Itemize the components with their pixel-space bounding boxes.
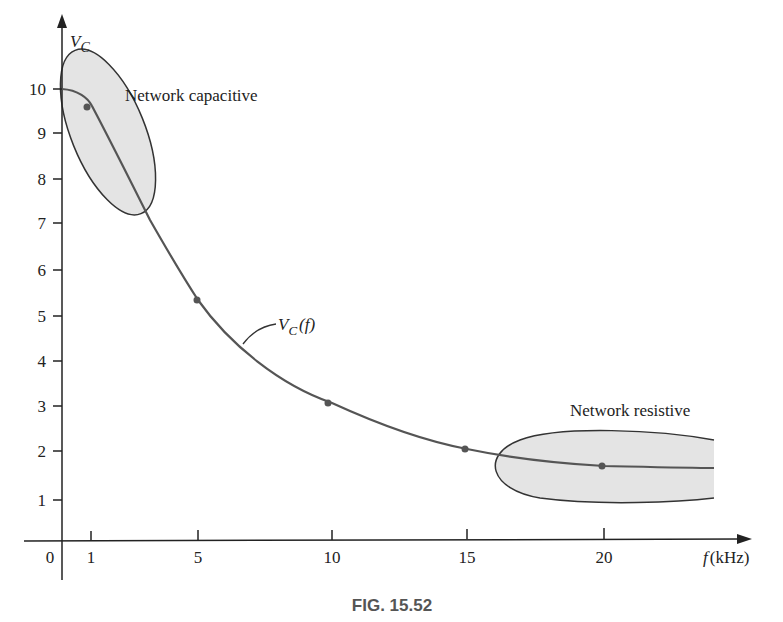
svg-text:1: 1 xyxy=(38,491,47,510)
curve-leader xyxy=(243,324,276,344)
svg-text:0: 0 xyxy=(46,548,55,567)
svg-text:10: 10 xyxy=(29,80,46,99)
data-points xyxy=(84,104,606,470)
svg-text:5: 5 xyxy=(194,548,203,567)
svg-text:15: 15 xyxy=(459,548,476,567)
x-axis-arrow xyxy=(737,534,752,544)
capacitive-region xyxy=(41,37,176,228)
y-axis-arrow xyxy=(57,14,67,28)
figure-caption: FIG. 15.52 xyxy=(352,596,432,615)
svg-text:10: 10 xyxy=(324,548,341,567)
x-axis-label: f(kHz) xyxy=(703,548,749,567)
svg-text:8: 8 xyxy=(38,170,47,189)
svg-text:6: 6 xyxy=(38,261,47,280)
chart: 1 2 3 4 5 6 7 8 9 10 0 1 5 10 15 20 VC f… xyxy=(0,0,783,622)
y-tick-labels: 1 2 3 4 5 6 7 8 9 10 xyxy=(29,80,47,510)
svg-text:20: 20 xyxy=(596,548,613,567)
svg-text:1: 1 xyxy=(87,548,96,567)
resistive-label: Network resistive xyxy=(570,401,690,420)
svg-text:9: 9 xyxy=(38,124,47,143)
x-tick-labels: 0 1 5 10 15 20 xyxy=(46,548,613,567)
svg-text:4: 4 xyxy=(38,352,47,371)
svg-text:5: 5 xyxy=(38,307,47,326)
svg-text:2: 2 xyxy=(38,442,47,461)
svg-text:3: 3 xyxy=(38,397,47,416)
y-ticks xyxy=(53,89,62,500)
x-axis xyxy=(24,539,740,541)
capacitive-label: Network capacitive xyxy=(125,86,258,105)
svg-text:7: 7 xyxy=(38,214,47,233)
curve-label: VC(f) xyxy=(278,315,315,338)
